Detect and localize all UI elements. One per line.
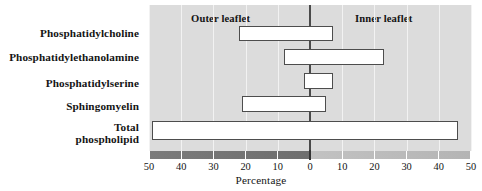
strip-inner-half [310,151,471,159]
strip-tick [342,151,343,159]
leaflet-gradient-strip [149,151,471,159]
category-label-sphingomyelin: Sphingomyelin [66,100,139,112]
x-tick-label: 40 [434,161,444,172]
x-axis-title-text: Percentage [235,174,286,186]
gridline [471,5,472,151]
strip-tick [470,151,471,159]
x-tick-label: 10 [273,161,283,172]
bar-phosphatidylethanolamine [284,49,384,65]
strip-tick [277,151,278,159]
phospholipid-distribution-figure: Phosphatidylcholine Phosphatidylethanola… [0,0,482,191]
gridline [149,5,150,151]
strip-tick [213,151,214,159]
category-label-total-phospholipid-line1: Total [114,121,139,133]
bar-sphingomyelin [242,96,326,112]
category-label-phosphatidylethanolamine: Phosphatidylethanolamine [9,51,139,63]
inner-leaflet-title: Inner leaflet [355,13,412,24]
x-tick-label: 50 [466,161,476,172]
strip-tick [438,151,439,159]
strip-tick [148,151,149,159]
x-tick-label: 20 [369,161,379,172]
category-label-total-phospholipid-line2: phospholipid [76,133,139,145]
outer-leaflet-title: Outer leaflet [191,13,250,24]
x-axis-title: Percentage [0,174,482,186]
strip-tick [406,151,407,159]
category-label-phosphatidylcholine: Phosphatidylcholine [40,27,139,39]
category-label-column: Phosphatidylcholine Phosphatidylethanola… [0,0,145,155]
x-tick-label: 50 [144,161,154,172]
x-tick-label: 10 [337,161,347,172]
category-label-phosphatidylserine: Phosphatidylserine [46,77,139,89]
x-tick-label: 40 [176,161,186,172]
bar-total-phospholipid [152,121,458,140]
plot-area: Outer leaflet Inner leaflet [149,5,471,151]
x-tick-label: 30 [401,161,411,172]
bar-phosphatidylserine [304,73,333,89]
x-tick-label: 20 [240,161,250,172]
strip-tick [245,151,246,159]
x-tick-label: 30 [208,161,218,172]
strip-outer-half [149,151,310,159]
bar-phosphatidylcholine [239,26,332,41]
strip-zero-tick [309,150,310,160]
strip-tick [374,151,375,159]
strip-tick [181,151,182,159]
x-tick-label: 0 [307,161,312,172]
